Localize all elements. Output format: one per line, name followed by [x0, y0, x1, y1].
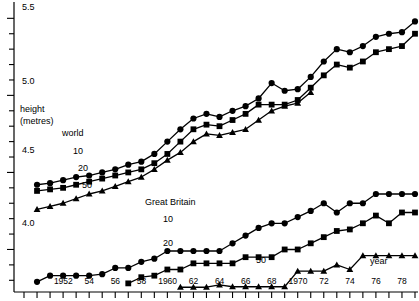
data-point-great-britain-10-1970 — [295, 214, 301, 220]
data-point-world-10-1950 — [34, 182, 40, 188]
data-point-great-britain-10-1958 — [138, 259, 144, 265]
data-point-world-20-1968 — [269, 102, 275, 108]
data-point-great-britain-20-1978 — [399, 210, 405, 216]
data-point-great-britain-10-1960 — [164, 248, 170, 254]
data-point-world-20-1975 — [360, 59, 366, 65]
data-point-world-10-1972 — [321, 58, 327, 64]
x-tick-label-1966: 66 — [241, 276, 250, 286]
x-tick-label-1976: 76 — [371, 276, 380, 286]
data-point-world-20-1951 — [47, 186, 53, 192]
series-tag-world-10: 10 — [73, 146, 83, 156]
data-point-world-10-1966 — [242, 103, 248, 109]
data-point-great-britain-10-1973 — [334, 209, 340, 215]
data-point-world-10-1964 — [216, 114, 222, 120]
data-point-great-britain-10-1950 — [34, 279, 40, 285]
data-point-world-10-1978 — [399, 29, 405, 35]
data-point-great-britain-10-1972 — [321, 200, 327, 206]
data-point-world-10-1965 — [229, 108, 235, 114]
data-point-world-20-1972 — [321, 72, 327, 78]
data-point-world-20-1958 — [138, 166, 144, 172]
series-tag-world-50: 50 — [82, 180, 92, 190]
data-point-great-britain-10-1976 — [373, 191, 379, 197]
data-point-world-10-1979 — [412, 18, 418, 24]
series-line-world-10 — [37, 21, 415, 184]
x-tick-label-1962: 62 — [189, 276, 198, 286]
data-point-world-20-1965 — [230, 117, 236, 123]
data-point-world-10-1974 — [347, 49, 353, 55]
x-tick-label-1960: 1960 — [158, 276, 177, 286]
data-point-great-britain-20-1979 — [412, 210, 418, 216]
data-point-world-10-1977 — [386, 31, 392, 37]
data-point-world-20-1963 — [204, 122, 210, 128]
data-point-world-50-1963 — [203, 131, 210, 137]
x-tick-label-1964: 64 — [215, 276, 224, 286]
data-point-world-10-1952 — [60, 177, 66, 183]
data-point-great-britain-10-1957 — [125, 265, 131, 271]
y-tick-label-4-5: 4.5 — [22, 145, 35, 155]
data-point-world-20-1952 — [60, 185, 66, 191]
y-tick-label-5-5: 5.5 — [22, 2, 35, 12]
data-point-world-20-1979 — [412, 31, 418, 37]
data-point-great-britain-50-1973 — [333, 261, 340, 267]
series-tag-gb-10: 10 — [163, 214, 173, 224]
data-point-great-britain-10-1961 — [177, 248, 183, 254]
data-point-great-britain-10-1975 — [360, 200, 366, 206]
group-label-great-britain: Great Britain — [145, 197, 196, 207]
data-point-great-britain-10-1951 — [47, 273, 53, 279]
series-line-world-20 — [37, 34, 415, 191]
data-point-great-britain-10-1955 — [99, 271, 105, 277]
x-tick-label-1972: 72 — [319, 276, 328, 286]
data-point-world-10-1954 — [86, 172, 92, 178]
data-point-great-britain-20-1964 — [217, 260, 223, 266]
data-point-great-britain-20-1961 — [178, 267, 184, 273]
y-tick-label-5-0: 5.0 — [22, 76, 35, 86]
data-point-world-20-1967 — [256, 102, 262, 108]
data-point-world-10-1969 — [282, 88, 288, 94]
data-point-great-britain-20-1963 — [204, 260, 210, 266]
data-point-great-britain-20-1970 — [295, 247, 301, 253]
data-point-world-20-1950 — [34, 188, 40, 194]
chart-plot-area — [0, 0, 419, 301]
x-tick-label-1968: 68 — [267, 276, 276, 286]
data-point-great-britain-10-1977 — [386, 191, 392, 197]
data-point-world-20-1960 — [164, 151, 170, 157]
data-point-world-10-1975 — [360, 43, 366, 49]
data-point-world-20-1964 — [217, 123, 223, 129]
data-point-great-britain-10-1956 — [112, 265, 118, 271]
x-tick-label-1956: 56 — [111, 276, 120, 286]
group-label-world: world — [62, 128, 84, 138]
data-point-world-10-1957 — [125, 162, 131, 168]
data-point-great-britain-20-1975 — [360, 220, 366, 226]
data-point-world-50-1960 — [164, 157, 171, 163]
data-point-great-britain-10-1974 — [347, 200, 353, 206]
data-point-world-10-1956 — [112, 166, 118, 172]
data-point-world-10-1963 — [203, 111, 209, 117]
x-tick-label-1958: 58 — [137, 276, 146, 286]
data-point-world-10-1955 — [99, 169, 105, 175]
data-point-great-britain-10-1964 — [216, 248, 222, 254]
y-axis-label-line2: (metres) — [20, 116, 54, 126]
data-point-world-20-1977 — [386, 46, 392, 52]
x-tick-label-1974: 74 — [345, 276, 354, 286]
data-point-world-50-1962 — [190, 138, 197, 144]
data-point-great-britain-10-1959 — [151, 256, 157, 262]
data-point-great-britain-10-1971 — [308, 208, 314, 214]
data-point-world-20-1962 — [191, 126, 197, 132]
data-point-world-50-1959 — [151, 166, 158, 172]
data-point-great-britain-20-1974 — [347, 227, 353, 233]
data-point-great-britain-10-1978 — [399, 191, 405, 197]
data-point-world-20-1973 — [334, 62, 340, 68]
x-tick-label-1978: 78 — [397, 276, 406, 286]
data-point-world-20-1959 — [151, 160, 157, 166]
data-point-great-britain-20-1969 — [282, 247, 288, 253]
data-point-world-10-1971 — [308, 74, 314, 80]
data-point-world-10-1960 — [164, 139, 170, 145]
series-tag-gb-20: 20 — [163, 238, 173, 248]
data-point-world-50-1966 — [242, 126, 249, 132]
data-point-world-20-1957 — [125, 170, 131, 176]
data-point-great-britain-20-1960 — [164, 267, 170, 273]
data-point-great-britain-20-1966 — [243, 254, 249, 260]
data-point-world-10-1961 — [177, 126, 183, 132]
data-point-great-britain-10-1963 — [203, 248, 209, 254]
data-point-world-10-1970 — [295, 86, 301, 92]
